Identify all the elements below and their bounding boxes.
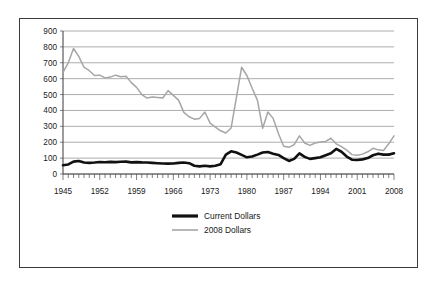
series-line-2008-dollars xyxy=(63,48,394,155)
chart-frame: 0100200300400500600700800900 19451952195… xyxy=(19,18,418,268)
x-tick-label: 1994 xyxy=(311,187,330,196)
x-tick-label: 2008 xyxy=(385,187,404,196)
x-tick-label: 1980 xyxy=(238,187,257,196)
chart-figure: 0100200300400500600700800900 19451952195… xyxy=(0,0,437,284)
y-tick-label: 700 xyxy=(43,59,57,68)
x-axis-tick-labels: 1945195219591966197319801987199420012008 xyxy=(54,187,404,196)
y-tick-label: 600 xyxy=(43,75,57,84)
y-tick-label: 200 xyxy=(43,138,57,147)
chart-legend: Current Dollars2008 Dollars xyxy=(172,211,260,235)
data-series-group xyxy=(63,48,394,166)
legend-label: Current Dollars xyxy=(204,211,260,221)
x-tick-label: 1973 xyxy=(201,187,220,196)
x-tick-label: 1959 xyxy=(127,187,146,196)
x-tick-label: 1966 xyxy=(164,187,183,196)
x-tick-label: 2001 xyxy=(348,187,367,196)
x-tick-label: 1952 xyxy=(91,187,110,196)
x-tick-label: 1945 xyxy=(54,187,73,196)
line-chart-plot: 0100200300400500600700800900 19451952195… xyxy=(20,19,416,266)
y-axis-tick-labels: 0100200300400500600700800900 xyxy=(43,27,57,179)
x-axis-tickmarks xyxy=(63,174,394,180)
legend-label: 2008 Dollars xyxy=(204,225,251,235)
y-tick-label: 400 xyxy=(43,106,57,115)
series-line-current-dollars xyxy=(63,149,394,166)
x-tick-label: 1987 xyxy=(275,187,294,196)
y-tick-label: 300 xyxy=(43,122,57,131)
y-tick-label: 0 xyxy=(52,170,57,179)
y-tick-label: 800 xyxy=(43,43,57,52)
y-tick-label: 100 xyxy=(43,154,57,163)
y-tick-label: 500 xyxy=(43,91,57,100)
y-tick-label: 900 xyxy=(43,27,57,36)
